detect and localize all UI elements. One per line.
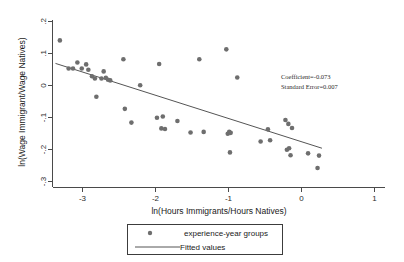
scatter-point	[108, 78, 113, 83]
scatter-point	[58, 38, 63, 43]
scatter-point	[175, 119, 180, 124]
scatter-point	[283, 118, 288, 123]
scatter-point	[315, 166, 320, 171]
y-tick-label-0: .2	[39, 18, 48, 25]
scatter-point	[290, 126, 295, 131]
legend-label-fitted: Fitted values	[180, 243, 225, 252]
legend-label-groups: experience-year groups	[184, 229, 268, 238]
scatter-point	[161, 114, 166, 119]
scatter-point	[224, 47, 229, 52]
scatter-point	[84, 62, 89, 67]
scatter-point	[286, 122, 291, 127]
x-axis-title: ln(Hours Immigrants/Hours Natives)	[151, 206, 286, 216]
scatter-point	[93, 76, 98, 81]
scatter-point	[201, 130, 206, 135]
scatter-point	[266, 127, 271, 132]
scatter-point	[94, 94, 99, 99]
scatter-point	[79, 66, 84, 71]
x-tick-label-2: -1	[225, 194, 233, 203]
scatter-point	[287, 146, 292, 151]
scatter-point	[75, 60, 80, 65]
x-tick-label-0: -3	[79, 194, 87, 203]
scatter-point	[123, 107, 128, 112]
scatter-point	[157, 62, 162, 67]
legend-marker-icon	[148, 231, 152, 235]
x-tick-label-4: 1	[372, 194, 377, 203]
scatter-point	[129, 120, 134, 125]
scatter-chart-figure: .2 .1 0 -.1 -.2 -.3 ln(Wage Immigrant/Wa…	[0, 0, 404, 262]
scatter-point	[66, 66, 71, 71]
scatter-point	[258, 139, 263, 144]
scatter-point	[71, 66, 76, 71]
scatter-point	[86, 68, 91, 73]
annotation-coefficient: Coefficient=-0.073	[281, 73, 331, 80]
y-axis-title: ln(Wage Immigrant/Wage Natives)	[17, 37, 27, 166]
scatter-point	[138, 83, 143, 88]
chart-svg: .2 .1 0 -.1 -.2 -.3 ln(Wage Immigrant/Wa…	[0, 0, 404, 262]
scatter-point	[228, 150, 233, 155]
scatter-point	[235, 75, 240, 80]
scatter-point	[268, 138, 273, 143]
y-tick-label-5: -.3	[39, 176, 48, 186]
scatter-point	[99, 76, 104, 81]
y-tick-label-4: -.2	[39, 144, 48, 154]
y-tick-label-2: 0	[39, 83, 48, 88]
y-tick-label-1: .1	[39, 50, 48, 57]
scatter-point	[306, 151, 311, 156]
y-tick-label-3: -.1	[39, 112, 48, 122]
x-tick-label-1: -2	[152, 194, 160, 203]
scatter-point	[197, 57, 202, 62]
scatter-point	[155, 116, 160, 121]
x-tick-label-3: 0	[299, 194, 304, 203]
annotation-standard-error: Standard Error=0.007	[281, 83, 338, 90]
scatter-point	[163, 127, 168, 132]
scatter-point	[121, 57, 126, 62]
scatter-point	[228, 131, 233, 136]
scatter-point	[188, 130, 193, 135]
chart-legend: experience-year groups Fitted values	[128, 225, 283, 255]
scatter-point	[317, 153, 322, 158]
scatter-point	[288, 153, 293, 158]
scatter-point	[101, 69, 106, 74]
